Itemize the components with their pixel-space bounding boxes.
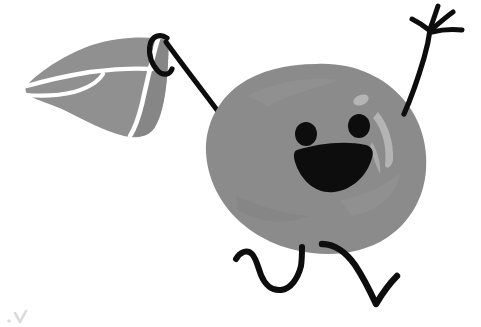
watermark-dot: [7, 319, 11, 323]
character-illustration: [0, 0, 481, 327]
illustration-canvas: Hand-drawn character flying a kite: [0, 0, 481, 327]
left-eye: [295, 122, 317, 146]
right-eye: [348, 114, 370, 138]
hand-finger-4: [432, 30, 462, 32]
